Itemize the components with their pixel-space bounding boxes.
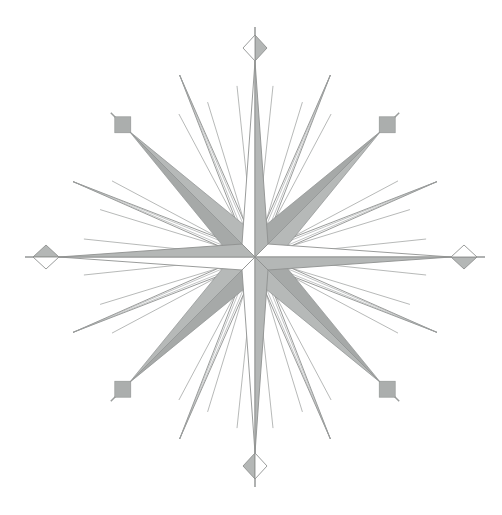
diamond-finial-shaded-half-west bbox=[33, 245, 59, 257]
cardinal-arm-white-half-west bbox=[59, 257, 255, 270]
square-finial-north-east bbox=[379, 117, 395, 133]
cardinal-arm-shaded-half-south bbox=[255, 257, 268, 453]
cardinal-arm-shaded-half-west bbox=[59, 244, 255, 257]
cardinal-arm-white-half-north bbox=[242, 61, 255, 257]
cardinal-arm-white-half-east bbox=[255, 244, 451, 257]
compass-rose-graphic bbox=[0, 0, 502, 515]
compass-rose-page bbox=[0, 0, 502, 515]
diamond-finial-shaded-half-north bbox=[255, 35, 267, 61]
diamond-finial-shaded-half-south bbox=[243, 453, 255, 479]
square-finial-south-east bbox=[379, 381, 395, 397]
diamond-finial-white-half-south bbox=[255, 453, 267, 479]
diamond-finial-white-half-east bbox=[451, 245, 477, 257]
square-finial-south-west bbox=[115, 381, 131, 397]
diamond-finial-white-half-north bbox=[243, 35, 255, 61]
diamond-finial-white-half-west bbox=[33, 257, 59, 269]
diamond-finial-shaded-half-east bbox=[451, 257, 477, 269]
cardinal-arm-shaded-half-north bbox=[255, 61, 268, 257]
cardinal-arm-shaded-half-east bbox=[255, 257, 451, 270]
square-finial-north-west bbox=[115, 117, 131, 133]
cardinal-arm-white-half-south bbox=[242, 257, 255, 453]
